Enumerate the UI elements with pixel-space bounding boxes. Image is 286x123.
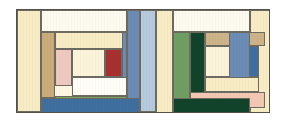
artwork-frame	[16, 9, 270, 113]
r-top-white	[173, 10, 250, 32]
r-bottom-dark-green	[173, 98, 250, 113]
r-green-column	[173, 32, 190, 108]
r-cream-lower-bar	[205, 77, 259, 92]
r-dark-green-col	[190, 32, 205, 94]
artwork-canvas	[0, 0, 286, 123]
right-block	[17, 10, 269, 112]
